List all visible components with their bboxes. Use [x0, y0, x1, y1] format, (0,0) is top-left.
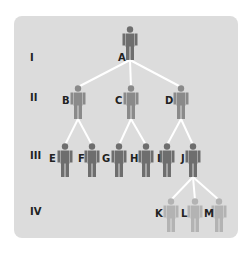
person-label: B	[62, 95, 70, 106]
person-label: F	[78, 153, 85, 164]
generation-label: III	[30, 150, 41, 161]
person-icon	[163, 198, 179, 236]
person-label: L	[181, 208, 187, 219]
person-icon	[70, 85, 86, 123]
person-label: I	[157, 153, 161, 164]
person-label: E	[49, 153, 56, 164]
person-label: A	[118, 52, 126, 63]
person-icon	[173, 85, 189, 123]
person-label: M	[204, 208, 214, 219]
person-icon	[84, 143, 100, 181]
person-label: D	[165, 95, 173, 106]
person-icon	[111, 143, 127, 181]
connector-line	[78, 60, 130, 87]
person-icon	[138, 143, 154, 181]
connector-line	[130, 60, 181, 87]
person-label: G	[102, 153, 110, 164]
person-icon	[123, 85, 139, 123]
generation-label: I	[30, 52, 34, 63]
person-label: H	[130, 153, 138, 164]
person-icon	[187, 198, 203, 236]
generation-label: IV	[30, 206, 41, 217]
connector-line	[130, 60, 131, 87]
person-label: J	[181, 153, 185, 164]
person-icon	[57, 143, 73, 181]
person-icon	[185, 143, 201, 181]
person-label: C	[115, 95, 122, 106]
person-label: K	[155, 208, 163, 219]
person-icon	[159, 143, 175, 181]
generation-label: II	[30, 92, 37, 103]
